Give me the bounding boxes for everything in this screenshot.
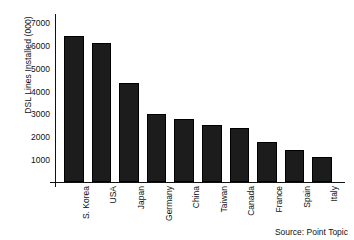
y-tick-label: 1000 (18, 156, 50, 165)
y-axis-tick-labels: 1000200030004000500060007000 (18, 0, 50, 240)
y-tick-label: 5000 (18, 64, 50, 73)
bar (64, 36, 84, 182)
x-axis-line (50, 182, 345, 183)
x-tick-label: Taiwan (219, 186, 229, 240)
x-tick-label: Canada (246, 186, 256, 240)
y-tick-label: 3000 (18, 110, 50, 119)
bar (147, 114, 167, 183)
bars-layer (55, 14, 345, 183)
x-tick-label: S. Korea (81, 186, 91, 240)
x-tick-label: China (191, 186, 201, 240)
y-tick-label: 6000 (18, 41, 50, 50)
bar (257, 142, 277, 182)
bar (312, 157, 332, 182)
plot-area (55, 14, 345, 183)
bar (285, 150, 305, 182)
bar (230, 128, 250, 182)
y-tick-label: 4000 (18, 87, 50, 96)
bar (174, 119, 194, 182)
source-note: Source: Point Topic (275, 227, 348, 237)
bar-chart-figure: DSL Lines Installed (000) 10002000300040… (0, 0, 354, 240)
x-tick-label: Japan (136, 186, 146, 240)
x-tick-label: Germany (164, 186, 174, 240)
bar (202, 125, 222, 182)
y-tick-label: 7000 (18, 19, 50, 28)
bar (92, 43, 112, 182)
bar (119, 83, 139, 182)
x-tick-label: USA (108, 186, 118, 240)
y-tick-label: 2000 (18, 133, 50, 142)
